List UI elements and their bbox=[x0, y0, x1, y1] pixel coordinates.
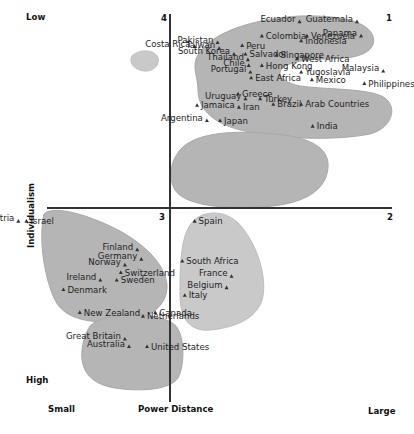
country-label: Guatemala bbox=[306, 14, 353, 24]
country-label: Netherlands bbox=[147, 311, 200, 321]
country-label: Spain bbox=[199, 216, 223, 226]
country-label: South Africa bbox=[186, 256, 238, 266]
country-label: Denmark bbox=[67, 285, 107, 295]
y-axis-top-label: Low bbox=[26, 12, 45, 22]
quadrant-label-3: 3 bbox=[159, 212, 165, 222]
country-marker bbox=[355, 20, 359, 24]
cluster-middle-right bbox=[171, 132, 328, 207]
cluster-bottom-anglo bbox=[82, 315, 183, 390]
country-label: Iran bbox=[243, 102, 260, 112]
country-marker bbox=[381, 69, 385, 73]
country-label: Argentina bbox=[161, 113, 203, 123]
country-label: Belgium bbox=[187, 280, 222, 290]
country-marker bbox=[16, 219, 20, 223]
country-label: United States bbox=[151, 342, 210, 352]
country-label: Arab Countries bbox=[305, 99, 370, 109]
country-label: Philippines bbox=[368, 79, 414, 89]
country-label: Ireland bbox=[67, 272, 97, 282]
country-marker bbox=[310, 78, 314, 82]
country-label: Colombia bbox=[266, 31, 306, 41]
country-label: India bbox=[317, 121, 338, 131]
country-label: Mexico bbox=[316, 75, 346, 85]
country-label: Italy bbox=[189, 290, 208, 300]
country-label: Australia bbox=[87, 339, 125, 349]
country-label: East Africa bbox=[255, 73, 301, 83]
country-marker bbox=[362, 81, 366, 85]
country-label: France bbox=[199, 268, 228, 278]
x-axis-title: Power Distance bbox=[138, 404, 214, 414]
country-label: Ecuador bbox=[260, 14, 296, 24]
quadrant-label-1: 1 bbox=[386, 13, 392, 23]
quadrant-label-4: 4 bbox=[161, 13, 167, 23]
x-axis-high-label: Large bbox=[368, 406, 396, 416]
quadrant-label-2: 2 bbox=[387, 212, 393, 222]
country-label: Uruguay bbox=[205, 91, 242, 101]
country-label: Finland bbox=[102, 242, 133, 252]
country-label: Brazil bbox=[277, 99, 301, 109]
country-label: Portugal bbox=[211, 64, 247, 74]
cluster-costa-rica bbox=[131, 51, 158, 71]
country-label: Japan bbox=[223, 116, 248, 126]
country-label: Indonesia bbox=[305, 36, 347, 46]
country-label: New Zealand bbox=[84, 308, 140, 318]
y-axis-bottom-label: High bbox=[26, 375, 48, 385]
country-label: Sweden bbox=[121, 275, 155, 285]
cultural-dimensions-diagram: Costa RicaEcuadorGuatemalaColombiaVenezu… bbox=[0, 0, 414, 434]
country-label: Jamaica bbox=[200, 100, 235, 110]
country-marker bbox=[195, 103, 199, 107]
x-axis-low-label: Small bbox=[48, 404, 75, 414]
country-label: Norway bbox=[88, 257, 121, 267]
y-axis-title: Individualism bbox=[26, 183, 36, 248]
country-label: Malaysia bbox=[342, 63, 380, 73]
country-marker bbox=[205, 118, 209, 122]
country-label: Austria bbox=[0, 213, 14, 223]
